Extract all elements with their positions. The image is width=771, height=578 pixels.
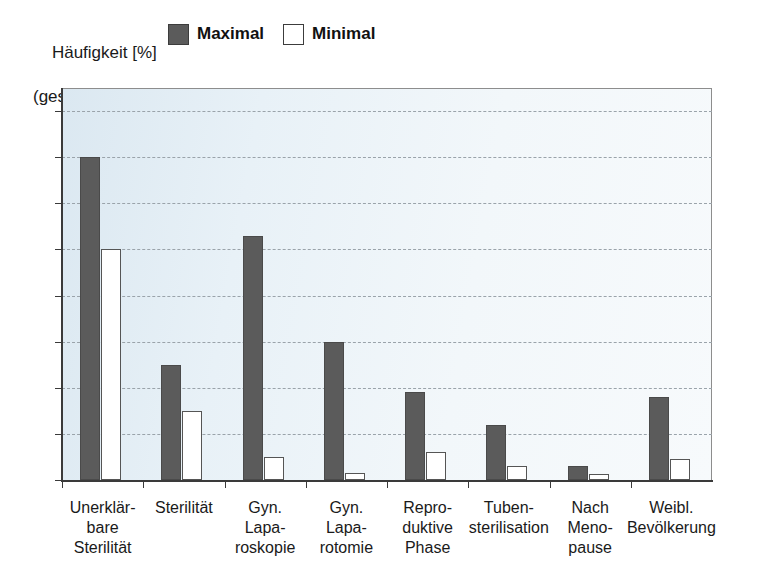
x-axis-label-5: Tuben- sterilisation <box>462 498 555 538</box>
bar-maximal-3 <box>324 342 344 480</box>
y-tick-mark-70 <box>55 157 63 158</box>
gridline-20 <box>62 388 712 389</box>
legend-item-minimal: Minimal <box>283 24 375 45</box>
x-tick-5 <box>468 480 469 488</box>
gridline-80 <box>62 111 712 112</box>
bar-maximal-2 <box>243 236 263 480</box>
x-tick-3 <box>306 480 307 488</box>
gridline-40 <box>62 296 712 297</box>
bar-maximal-7 <box>649 397 669 480</box>
x-axis-label-7: Weibl. Bevölkerung <box>625 498 718 538</box>
x-axis-label-1: Sterilität <box>137 498 230 518</box>
y-tick-mark-20 <box>55 388 63 389</box>
bar-maximal-5 <box>486 425 506 480</box>
gridline-50 <box>62 249 712 250</box>
x-tick-0 <box>62 480 63 488</box>
bar-maximal-0 <box>80 157 100 480</box>
x-axis-label-4: Repro- duktive Phase <box>381 498 474 558</box>
legend-item-maximal: Maximal <box>168 24 264 45</box>
bar-minimal-3 <box>345 473 365 480</box>
bar-minimal-1 <box>182 411 202 480</box>
gridline-10 <box>62 434 712 435</box>
bar-minimal-4 <box>426 452 446 480</box>
x-axis-label-2: Gyn. Lapa- roskopie <box>219 498 312 558</box>
chart-legend: Maximal Minimal <box>168 22 375 46</box>
y-tick-mark-60 <box>55 203 63 204</box>
legend-swatch-maximal-icon <box>168 24 189 45</box>
bar-minimal-2 <box>264 457 284 480</box>
footer-cutoff-strip <box>0 566 771 578</box>
legend-label-maximal: Maximal <box>197 24 264 44</box>
y-axis-title-line1: Häufigkeit [%] <box>52 43 157 62</box>
x-tick-4 <box>387 480 388 488</box>
x-tick-1 <box>143 480 144 488</box>
bar-maximal-4 <box>405 392 425 480</box>
y-tick-mark-40 <box>55 296 63 297</box>
legend-label-minimal: Minimal <box>312 24 375 44</box>
bar-maximal-1 <box>161 365 181 480</box>
y-tick-mark-80 <box>55 111 63 112</box>
gridline-70 <box>62 157 712 158</box>
gridline-60 <box>62 203 712 204</box>
bar-minimal-0 <box>101 249 121 480</box>
y-axis-line <box>61 88 63 481</box>
x-axis-label-6: Nach Meno- pause <box>544 498 637 558</box>
y-tick-mark-30 <box>55 342 63 343</box>
y-tick-mark-50 <box>55 249 63 250</box>
bar-minimal-6 <box>589 474 609 480</box>
x-tick-7 <box>631 480 632 488</box>
gridline-30 <box>62 342 712 343</box>
x-axis-label-3: Gyn. Lapa- rotomie <box>300 498 393 558</box>
bar-minimal-5 <box>507 466 527 480</box>
chart-header: Häufigkeit [%] (geschätzt) Maximal Minim… <box>0 0 771 84</box>
legend-swatch-minimal-icon <box>283 24 304 45</box>
bar-maximal-6 <box>568 466 588 480</box>
x-tick-2 <box>225 480 226 488</box>
y-tick-mark-10 <box>55 434 63 435</box>
bar-chart: 01020304050607080 <box>62 88 712 480</box>
x-axis-labels: Unerklär- bare SterilitätSterilitätGyn. … <box>62 498 771 560</box>
x-axis-label-0: Unerklär- bare Sterilität <box>56 498 149 558</box>
bar-minimal-7 <box>670 459 690 480</box>
plot-background <box>62 88 712 480</box>
x-tick-6 <box>550 480 551 488</box>
